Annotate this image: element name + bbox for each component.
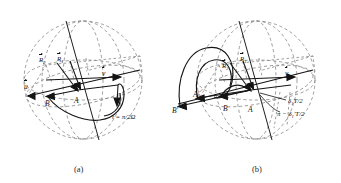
- sphere-wireframe-b: [196, 21, 317, 139]
- point-label-A-b: A: [248, 105, 253, 114]
- time-annotation-a: t = π/2Ω: [112, 113, 135, 120]
- point-label-B-b: B: [223, 104, 228, 113]
- arrowhead-u-a: [28, 93, 35, 100]
- delta-annotation-b: δ1T/2: [288, 97, 303, 106]
- pi-minus-delta-annotation-b: π − δ1′T/2: [277, 110, 304, 119]
- axis-b: [239, 21, 272, 140]
- panel-b-graphic: [168, 0, 341, 165]
- vector-label-v-b: v: [285, 69, 288, 78]
- point-label-A-prime-b: A′: [193, 90, 199, 99]
- panel-caption-a: (a): [74, 164, 83, 174]
- vector-label-u-a: u: [24, 82, 28, 91]
- point-label-B-prime-b: B′: [172, 106, 178, 115]
- vector-v-a: [46, 77, 120, 80]
- vector-label-v-a: v: [102, 69, 105, 78]
- rotation-axis-b: [239, 21, 272, 140]
- point-label-B-a: B: [45, 99, 50, 108]
- vector-v-b: [219, 77, 294, 80]
- vector-label-R2-a: R2: [39, 56, 45, 65]
- vector-label-R2-b: R2: [222, 62, 228, 71]
- point-label-A-a: A: [74, 96, 79, 105]
- sphere-wireframe-a: [23, 21, 144, 139]
- figure-container: R2 R1 v u B A t = π/2Ω (a): [0, 0, 341, 183]
- vector-label-R1-b: R1: [240, 55, 246, 64]
- vector-label-R1-a: R1: [57, 55, 63, 64]
- panel-caption-b: (b): [252, 164, 262, 174]
